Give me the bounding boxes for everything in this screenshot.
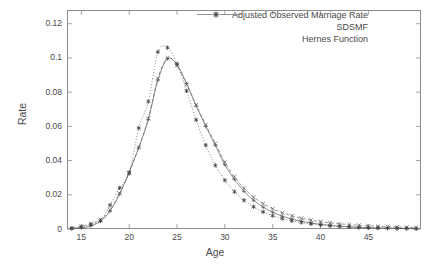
legend-label: Adjusted Observed Marriage Rate: [232, 10, 368, 20]
x-tick-label: 20: [114, 233, 144, 242]
series-0: [70, 57, 418, 231]
x-tick-label: 40: [306, 233, 336, 242]
x-axis-title: Age: [0, 246, 430, 258]
x-tick-label: 25: [162, 233, 192, 242]
y-tick-label: 0.02: [18, 190, 62, 199]
x-tick-label: 45: [353, 233, 383, 242]
x-tick-label: 35: [258, 233, 288, 242]
legend-key-star-icon: [372, 33, 418, 44]
legend-item-hernes-function: Hernes Function: [196, 33, 418, 44]
chart-container: 00.020.040.060.080.10.12 15202530354045 …: [0, 0, 430, 267]
legend-label: SDSMF: [337, 22, 369, 32]
y-tick-label: 0: [18, 225, 62, 234]
y-tick-label: 0.12: [18, 19, 62, 28]
legend-label: Hernes Function: [302, 34, 368, 44]
series-1: [70, 56, 418, 230]
y-axis-title: Rate: [16, 84, 28, 144]
series-2: [70, 45, 418, 230]
x-tick-label: 30: [210, 233, 240, 242]
chart-legend: Adjusted Observed Marriage Rate SDSMF: [196, 9, 418, 45]
legend-item-sdsmf: SDSMF: [196, 21, 418, 32]
legend-key-cross-icon: [372, 21, 418, 32]
x-tick-label: 15: [66, 233, 96, 242]
y-tick-label: 0.1: [18, 53, 62, 62]
legend-key-plus-icon: [372, 9, 418, 20]
y-tick-label: 0.04: [18, 156, 62, 165]
